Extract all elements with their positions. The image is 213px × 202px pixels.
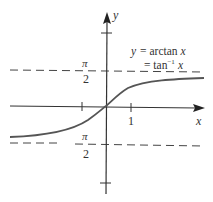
y-axis-label: y <box>112 8 119 22</box>
lower-pi: π <box>82 130 88 142</box>
eq2-tan: = tan <box>144 59 168 71</box>
lower-two: 2 <box>83 147 89 161</box>
eq-y: y <box>130 45 137 58</box>
upper-two: 2 <box>83 72 89 86</box>
eq2-sup: −1 <box>167 58 175 66</box>
eq-x: x <box>179 45 186 57</box>
eq-rest: = arctan <box>140 45 180 57</box>
x-axis-label: x <box>195 114 202 128</box>
x-tick-label-1: 1 <box>128 114 134 128</box>
upper-pi: π <box>82 57 88 69</box>
arctan-graph: y x 1 π 2 π 2 y= arctan x = tan−1x <box>0 0 213 202</box>
equation-line-2: = tan−1x <box>144 58 184 71</box>
lower-asymptote-right <box>75 144 204 146</box>
equation-line-1: y= arctan x <box>130 45 186 58</box>
y-axis <box>106 22 107 194</box>
eq2-x: x <box>177 59 184 71</box>
